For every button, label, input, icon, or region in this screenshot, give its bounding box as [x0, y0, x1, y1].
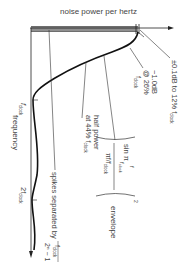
spikes-fraction: fclock 2ⁿ − 1: [44, 243, 61, 261]
envelope-denominator: πf/fclock: [103, 153, 112, 175]
plateau-band: [31, 26, 138, 32]
flatness-leader: [140, 30, 170, 58]
rolloff-leader: [130, 48, 143, 68]
frequency-axis-arrow-icon: [29, 251, 33, 258]
power-axis-arrow-icon: [168, 26, 174, 30]
envelope-exponent: 2: [133, 200, 139, 203]
envelope-numerator: sin π f fclock: [118, 144, 137, 173]
rolloff-note: −1.0dB @ 26% fclock: [133, 70, 159, 97]
flatness-note: ±0.1dB to 12% fclock: [169, 60, 179, 124]
noise-spectrum-diagram: noise power per hertz ±0.1dB to 12% fclo…: [0, 0, 187, 267]
spikes-note: spikes separated by: [50, 172, 59, 239]
envelope-paren-right: [96, 194, 135, 197]
half-power-note: half power at 44% fclock: [83, 115, 101, 154]
envelope-label: envelope: [109, 206, 118, 239]
envelope-leader: [104, 56, 115, 140]
tick-2fclock: 2fclock: [18, 187, 28, 204]
spikes-leader: [49, 30, 55, 170]
frequency-axis-title: frequency: [11, 115, 20, 150]
half-power-leader: [82, 62, 86, 118]
power-axis-title: noise power per hertz: [60, 7, 137, 16]
